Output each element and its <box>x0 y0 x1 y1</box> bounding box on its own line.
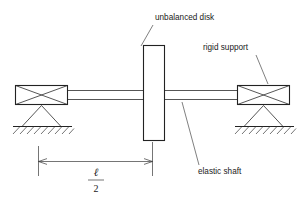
label-rigid-support-group: rigid support <box>203 43 268 84</box>
right-rigid-support <box>235 86 296 135</box>
leader-rigid-support <box>256 55 268 84</box>
label-rigid-support: rigid support <box>203 43 249 52</box>
right-pivot-triangle <box>244 106 283 127</box>
label-unbalanced-disk: unbalanced disk <box>155 13 215 22</box>
rotor-diagram-canvas: ℓ 2 unbalanced disk rigid support elasti… <box>0 0 305 207</box>
label-unbalanced-disk-group: unbalanced disk <box>141 13 215 46</box>
leader-unbalanced-disk <box>141 25 153 46</box>
left-bearing-block <box>16 86 68 105</box>
right-ground-hatching <box>235 127 296 135</box>
label-elastic-shaft: elastic shaft <box>198 167 242 176</box>
unbalanced-disk <box>144 46 165 141</box>
right-bearing-block <box>238 86 290 105</box>
dimension-l-over-2: ℓ 2 <box>39 142 153 194</box>
left-pivot-triangle <box>22 106 61 127</box>
left-ground-hatching <box>13 127 74 135</box>
dimension-numerator: ℓ <box>94 166 99 178</box>
dimension-denominator: 2 <box>94 183 99 194</box>
leader-elastic-shaft <box>182 102 199 165</box>
rotor-diagram-svg: ℓ 2 unbalanced disk rigid support elasti… <box>0 0 305 207</box>
label-elastic-shaft-group: elastic shaft <box>182 102 242 176</box>
left-rigid-support <box>13 86 74 135</box>
